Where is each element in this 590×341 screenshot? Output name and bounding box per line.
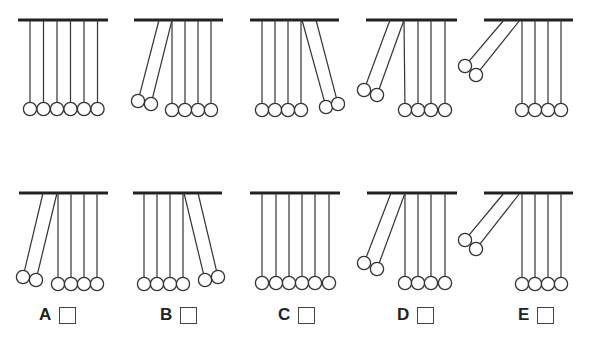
- option-checkbox[interactable]: [537, 307, 554, 324]
- option-cradle-1: [16, 193, 108, 291]
- pendulum-ball: [50, 102, 63, 115]
- pendulum-ball: [64, 277, 77, 290]
- pendulum-ball: [469, 68, 482, 81]
- option-checkbox[interactable]: [180, 307, 197, 324]
- pendulum-ball: [295, 276, 308, 289]
- pendulum-ball: [515, 277, 528, 290]
- pendulum-string: [469, 193, 504, 235]
- pendulum-string: [469, 20, 504, 61]
- pendulum-ball: [16, 270, 29, 283]
- pendulum-ball: [178, 103, 191, 116]
- sequence-cradle-4: [357, 20, 457, 117]
- sequence-cradle-5: [458, 20, 573, 117]
- pendulum-string: [302, 20, 324, 101]
- option-checkbox[interactable]: [417, 307, 434, 324]
- pendulum-ball: [322, 276, 335, 289]
- pendulum-ball: [137, 277, 150, 290]
- pendulum-ball: [528, 103, 541, 116]
- pendulum-ball: [319, 100, 332, 113]
- pendulum-ball: [370, 88, 383, 101]
- pendulum-ball: [77, 277, 90, 290]
- pendulum-ball: [458, 233, 471, 246]
- option-cradle-5: [458, 193, 573, 291]
- pendulum-ball: [204, 103, 217, 116]
- pendulum-ball: [131, 94, 144, 107]
- pendulum-ball: [165, 103, 178, 116]
- pendulum-ball: [23, 102, 36, 115]
- option-checkbox[interactable]: [59, 307, 76, 324]
- pendulum-ball: [515, 103, 528, 116]
- answer-option-c[interactable]: C: [278, 305, 315, 325]
- pendulum-ball: [51, 277, 64, 290]
- pendulum-ball: [357, 83, 370, 96]
- pendulum-string: [366, 193, 391, 257]
- pendulum-ball: [554, 277, 567, 290]
- pendulum-ball: [77, 102, 90, 115]
- pendulum-string: [480, 193, 520, 244]
- pendulum-ball: [191, 103, 204, 116]
- pendulum-ball: [424, 103, 437, 116]
- pendulum-ball: [91, 102, 104, 115]
- pendulum-ball: [541, 103, 554, 116]
- pendulum-string: [379, 20, 404, 89]
- pendulum-ball: [294, 103, 307, 116]
- pendulum-ball: [269, 276, 282, 289]
- pendulum-string: [366, 20, 390, 84]
- pendulum-ball: [64, 102, 77, 115]
- option-letter: D: [397, 305, 409, 325]
- option-letter: B: [160, 305, 172, 325]
- pendulum-ball: [198, 273, 211, 286]
- pendulum-ball: [438, 103, 451, 116]
- pendulum-ball: [424, 276, 437, 289]
- option-checkbox[interactable]: [298, 307, 315, 324]
- pendulum-ball: [144, 97, 157, 110]
- option-letter: A: [39, 305, 51, 325]
- pendulum-ball: [398, 276, 411, 289]
- pendulum-ball: [37, 102, 50, 115]
- sequence-cradle-2: [131, 20, 223, 117]
- newtons-cradle-diagram: [0, 0, 590, 341]
- option-cradle-4: [357, 193, 457, 290]
- pendulum-ball: [268, 103, 281, 116]
- option-cradle-2: [133, 193, 225, 291]
- answer-option-a[interactable]: A: [39, 305, 76, 325]
- pendulum-string: [25, 193, 43, 271]
- pendulum-ball: [150, 277, 163, 290]
- pendulum-ball: [398, 103, 411, 116]
- pendulum-ball: [281, 103, 294, 116]
- pendulum-ball: [90, 277, 103, 290]
- pendulum-ball: [331, 97, 344, 110]
- pendulum-ball: [411, 276, 424, 289]
- pendulum-ball: [357, 256, 370, 269]
- pendulum-ball: [438, 276, 451, 289]
- pendulum-ball: [163, 277, 176, 290]
- pendulum-ball: [282, 276, 295, 289]
- sequence-cradle-1: [18, 20, 108, 116]
- answer-option-e[interactable]: E: [518, 305, 554, 325]
- pendulum-ball: [554, 103, 567, 116]
- pendulum-string: [198, 193, 216, 271]
- pendulum-ball: [255, 103, 268, 116]
- pendulum-ball: [255, 276, 268, 289]
- pendulum-string: [316, 20, 336, 98]
- pendulum-ball: [29, 273, 42, 286]
- pendulum-ball: [458, 59, 471, 72]
- pendulum-ball: [176, 277, 189, 290]
- pendulum-ball: [370, 262, 383, 275]
- option-cradle-3: [250, 193, 340, 290]
- option-letter: C: [278, 305, 290, 325]
- option-letter: E: [518, 305, 529, 325]
- pendulum-ball: [541, 277, 554, 290]
- pendulum-ball: [411, 103, 424, 116]
- answer-option-b[interactable]: B: [160, 305, 197, 325]
- pendulum-ball: [308, 276, 321, 289]
- answer-option-d[interactable]: D: [397, 305, 434, 325]
- pendulum-ball: [211, 270, 224, 283]
- sequence-cradle-3: [250, 20, 345, 117]
- pendulum-ball: [528, 277, 541, 290]
- pendulum-ball: [469, 242, 482, 255]
- pendulum-string: [379, 193, 405, 263]
- pendulum-string: [404, 20, 405, 103]
- pendulum-string: [480, 20, 520, 70]
